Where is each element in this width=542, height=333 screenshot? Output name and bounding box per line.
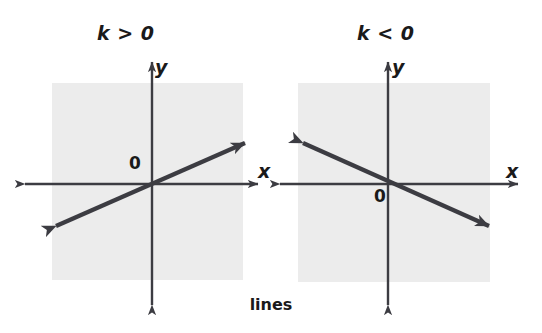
figure-graphics xyxy=(0,0,542,333)
y-axis-label-left: y xyxy=(155,56,167,78)
panel-title-right: k < 0 xyxy=(357,22,415,44)
figure-container: k > 0 k < 0 x y 0 x y 0 lines xyxy=(0,0,542,333)
panel-left xyxy=(25,62,258,305)
figure-caption: lines xyxy=(0,295,542,314)
x-axis-label-left: x xyxy=(258,160,270,182)
panel-title-left: k > 0 xyxy=(97,22,155,44)
panel-title-left-text: k > 0 xyxy=(97,22,155,44)
origin-label-right: 0 xyxy=(374,186,386,206)
y-axis-label-right: y xyxy=(392,56,404,78)
plot-area-left xyxy=(52,83,243,280)
panel-title-right-text: k < 0 xyxy=(357,22,415,44)
panel-right xyxy=(280,62,518,305)
origin-label-left: 0 xyxy=(129,153,141,173)
x-axis-label-right: x xyxy=(506,160,518,182)
